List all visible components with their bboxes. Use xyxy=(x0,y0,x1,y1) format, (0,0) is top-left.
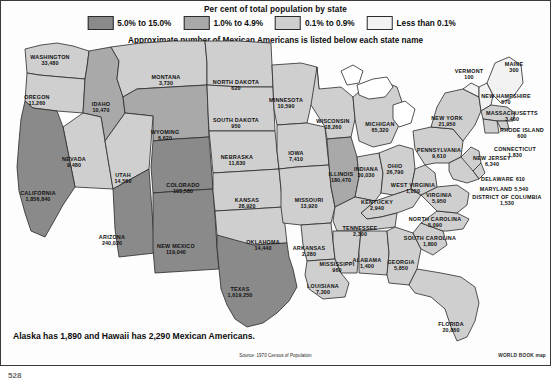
state-shape-nd[interactable] xyxy=(205,41,273,87)
map-credit: WORLD BOOK map xyxy=(498,353,546,358)
state-shape-tx[interactable] xyxy=(217,235,297,327)
state-shape-ia[interactable] xyxy=(277,123,329,169)
state-shape-ct[interactable] xyxy=(483,119,499,133)
state-shape-al[interactable] xyxy=(359,231,389,275)
map-frame: Per cent of total population by state 5.… xyxy=(0,0,551,366)
state-shape-oh[interactable] xyxy=(379,145,415,195)
state-shape-sd[interactable] xyxy=(207,85,275,131)
state-shape-co[interactable] xyxy=(151,137,213,193)
map-page: Per cent of total population by state 5.… xyxy=(0,0,551,385)
great-lake-1 xyxy=(393,101,415,127)
state-shape-nm[interactable] xyxy=(153,189,219,273)
footnote-alaska-hawaii: Alaska has 1,890 and Hawaii has 2,290 Me… xyxy=(13,331,263,343)
state-shape-fl[interactable] xyxy=(409,269,479,341)
state-shape-ar[interactable] xyxy=(301,223,335,261)
great-lake-2 xyxy=(341,65,363,85)
us-choropleth-map xyxy=(1,1,551,367)
state-shape-mn[interactable] xyxy=(272,63,319,125)
state-shape-ks[interactable] xyxy=(213,169,283,211)
state-shape-ri[interactable] xyxy=(497,121,509,129)
state-shape-wa[interactable] xyxy=(25,43,89,79)
source-note: Source: 1970 Census of Population xyxy=(239,353,311,358)
state-shape-ca[interactable] xyxy=(17,101,75,237)
state-shape-in[interactable] xyxy=(355,153,383,201)
state-shape-pa[interactable] xyxy=(413,127,463,165)
state-shape-ne[interactable] xyxy=(209,131,279,173)
state-shape-mo[interactable] xyxy=(279,165,335,225)
page-number: 528 xyxy=(8,371,21,380)
state-shape-or[interactable] xyxy=(25,73,85,113)
